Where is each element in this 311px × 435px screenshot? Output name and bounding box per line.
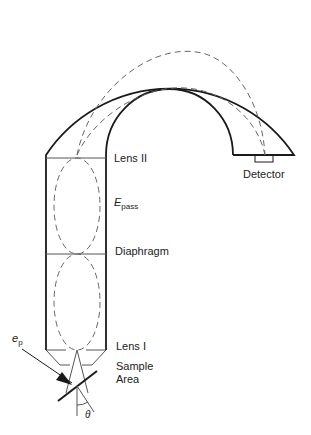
analyzer-drawing [0, 0, 311, 435]
theta-label: θ [85, 408, 90, 421]
analyzer-diagram: Lens II Detector Epass Diaphragm Lens I … [0, 0, 311, 435]
trajectory-inner [77, 88, 265, 155]
epass-label: Epass [114, 196, 138, 213]
theta-arc [77, 402, 88, 405]
detector-label: Detector [243, 168, 285, 181]
focus-ellipse-lower [54, 254, 100, 350]
outer-hemisphere [46, 89, 294, 350]
epass-sub: pass [121, 202, 138, 211]
lens2-label: Lens II [114, 152, 147, 165]
sample-label-2: Area [116, 373, 139, 386]
detector-box [255, 155, 273, 162]
lens1-label: Lens I [116, 340, 146, 353]
ep-label: ep [12, 332, 23, 349]
sample-label-1: Sample [116, 360, 153, 373]
focus-ellipse-upper [54, 158, 100, 254]
ep-sub: p [18, 338, 22, 347]
inner-hemisphere [106, 89, 233, 350]
diaphragm-label: Diaphragm [115, 245, 169, 258]
